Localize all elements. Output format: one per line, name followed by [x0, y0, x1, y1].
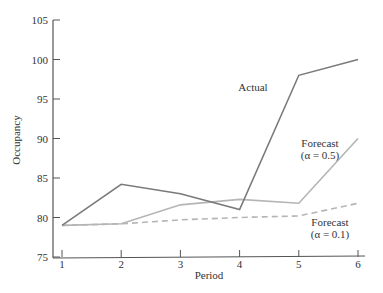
y-tick-label: 75 [37, 251, 49, 263]
label-actual: Actual [238, 81, 267, 93]
y-tick-label: 95 [37, 93, 49, 105]
y-axis: 7580859095100105 [32, 14, 61, 263]
occupancy-line-chart: 7580859095100105 123456 Occupancy Period… [0, 0, 383, 293]
x-tick-label: 1 [59, 258, 65, 270]
y-axis-label: Occupancy [10, 115, 22, 165]
y-tick-label: 105 [32, 14, 49, 26]
x-tick-label: 3 [178, 258, 184, 270]
label-forecast-01-line1: Forecast [311, 216, 348, 228]
y-tick-label: 100 [32, 54, 49, 66]
x-tick-label: 4 [237, 258, 243, 270]
x-axis: 123456 [53, 250, 365, 270]
y-tick-label: 80 [37, 212, 49, 224]
y-tick-label: 90 [37, 133, 49, 145]
label-forecast-01-line2: (α = 0.1) [311, 228, 350, 241]
x-tick-label: 5 [296, 258, 302, 270]
x-tick-label: 6 [355, 258, 361, 270]
y-tick-label: 85 [37, 172, 49, 184]
label-forecast-05-line1: Forecast [301, 137, 338, 149]
x-tick-label: 2 [118, 258, 124, 270]
x-axis-label: Period [195, 269, 224, 281]
label-forecast-05-line2: (α = 0.5) [301, 149, 340, 162]
